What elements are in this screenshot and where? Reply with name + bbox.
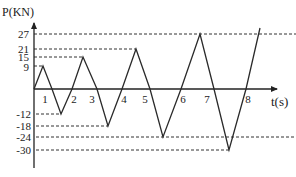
x-tick-7: 7 [204,93,210,105]
x-tick-3: 3 [89,93,95,105]
y-tick-27: 27 [18,28,30,40]
x-axis-label: t(s) [271,94,288,109]
y-axis-label: P(KN) [2,5,34,19]
x-tick-1: 1 [42,93,48,105]
x-tick-8: 8 [245,93,251,105]
x-tick-5: 5 [142,93,148,105]
x-tick-6: 6 [180,93,186,105]
x-tick-labels: 1 2 3 4 5 6 7 8 [42,93,251,105]
y-tick-labels: 27 21 15 9 -12 -18 -24 -30 [16,28,31,156]
x-tick-4: 4 [121,93,127,105]
y-tick-9: 9 [24,61,30,73]
y-tick-neg30: -30 [16,144,31,156]
load-time-chart: P(KN) 27 21 15 9 -12 -18 -24 -30 1 2 3 4… [0,0,296,177]
y-tick-neg24: -24 [16,131,31,143]
x-tick-2: 2 [71,93,77,105]
y-tick-neg12: -12 [16,108,31,120]
